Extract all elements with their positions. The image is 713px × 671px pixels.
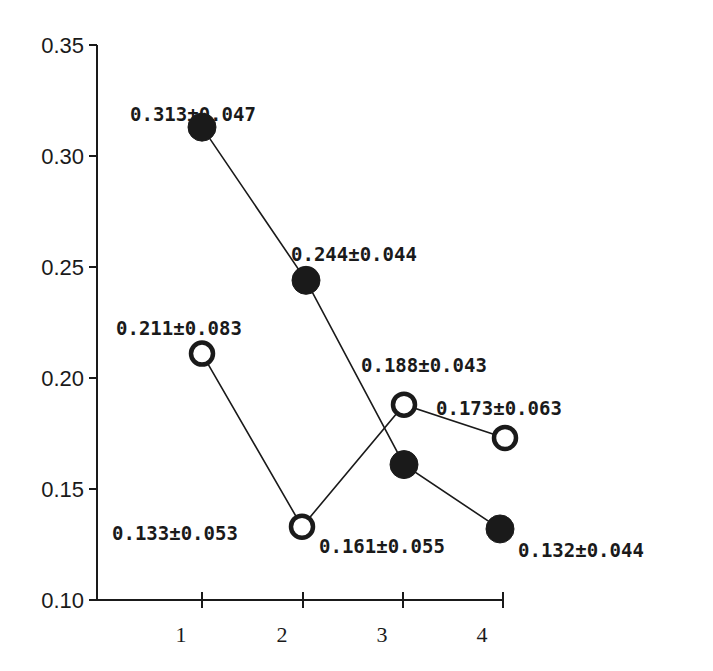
filled-circle-marker bbox=[390, 451, 418, 479]
data-label-filled: 0.132±0.044 bbox=[518, 539, 644, 561]
open-circle-marker bbox=[191, 343, 213, 365]
y-tick-label: 0.30 bbox=[41, 144, 84, 169]
point-labels: 0.313±0.0470.244±0.0440.161±0.0550.132±0… bbox=[112, 103, 644, 561]
data-label-open: 0.188±0.043 bbox=[361, 354, 487, 376]
y-tick-label: 0.25 bbox=[41, 255, 84, 280]
x-tick-label: 1 bbox=[176, 622, 187, 647]
filled-circle-marker bbox=[486, 515, 514, 543]
x-tick-label: 2 bbox=[277, 622, 288, 647]
x-tick-label: 4 bbox=[477, 622, 488, 647]
y-tick-label: 0.15 bbox=[41, 477, 84, 502]
data-label-open: 0.173±0.063 bbox=[436, 397, 562, 419]
data-label-filled: 0.161±0.055 bbox=[319, 535, 445, 557]
x-tick-label: 3 bbox=[377, 622, 388, 647]
open-circle-marker bbox=[494, 427, 516, 449]
data-label-open: 0.133±0.053 bbox=[112, 522, 238, 544]
data-label-open: 0.211±0.083 bbox=[116, 317, 242, 339]
line-chart: 0.100.150.200.250.300.35 1234 0.313±0.04… bbox=[0, 0, 713, 671]
y-tick-label: 0.10 bbox=[41, 588, 84, 613]
series-line-open bbox=[202, 354, 505, 527]
open-circle-marker bbox=[393, 394, 415, 416]
y-ticks: 0.100.150.200.250.300.35 bbox=[41, 33, 97, 613]
data-label-filled: 0.244±0.044 bbox=[291, 243, 417, 265]
y-tick-label: 0.35 bbox=[41, 33, 84, 58]
filled-circle-marker bbox=[292, 266, 320, 294]
y-tick-label: 0.20 bbox=[41, 366, 84, 391]
open-circle-marker bbox=[291, 516, 313, 538]
data-label-filled: 0.313±0.047 bbox=[130, 103, 256, 125]
